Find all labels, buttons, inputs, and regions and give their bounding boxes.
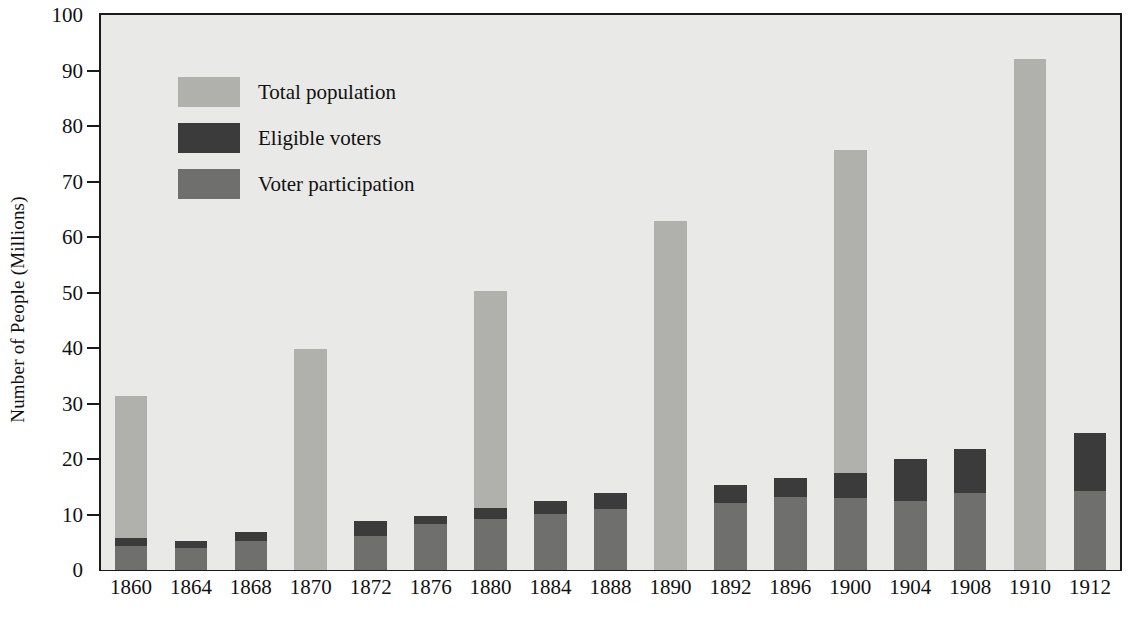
bar-group[interactable] bbox=[594, 15, 627, 570]
x-axis-tick-label: 1880 bbox=[461, 575, 521, 600]
bar-group[interactable] bbox=[654, 15, 687, 570]
y-axis-tick-label: 30 bbox=[62, 391, 83, 417]
x-axis-tick-label: 1872 bbox=[341, 575, 401, 600]
x-axis-tick-label: 1888 bbox=[581, 575, 641, 600]
legend-item-label: Voter participation bbox=[258, 172, 415, 197]
bar-segment-voter-participation[interactable] bbox=[1074, 491, 1107, 570]
bar-segment-voter-participation[interactable] bbox=[534, 514, 567, 570]
x-axis-tick-label: 1910 bbox=[1000, 575, 1060, 600]
bar-segment-voter-participation[interactable] bbox=[235, 541, 268, 570]
legend-swatch-icon bbox=[178, 169, 240, 199]
bar-segment-voter-participation[interactable] bbox=[474, 519, 507, 570]
y-axis-tick-label: 20 bbox=[62, 446, 83, 472]
y-axis-tick-label: 0 bbox=[73, 557, 84, 583]
bar-group[interactable] bbox=[115, 15, 148, 570]
bar-segment-voter-participation[interactable] bbox=[354, 536, 387, 570]
legend-item[interactable]: Voter participation bbox=[178, 161, 508, 207]
bar-segment-voter-participation[interactable] bbox=[894, 501, 927, 570]
y-axis-tick-label: 40 bbox=[62, 335, 83, 361]
bar-group[interactable] bbox=[894, 15, 927, 570]
bar-segment-total-population[interactable] bbox=[294, 349, 327, 570]
y-axis-tick-label: 80 bbox=[62, 113, 83, 139]
legend-item[interactable]: Total population bbox=[178, 69, 508, 115]
bar-group[interactable] bbox=[774, 15, 807, 570]
axis-spine-right bbox=[1120, 13, 1122, 571]
x-axis-tick-label: 1868 bbox=[221, 575, 281, 600]
legend-item-label: Total population bbox=[258, 80, 396, 105]
bar-group[interactable] bbox=[534, 15, 567, 570]
bar-segment-voter-participation[interactable] bbox=[774, 497, 807, 570]
bar-segment-total-population[interactable] bbox=[654, 221, 687, 570]
bar-group[interactable] bbox=[714, 15, 747, 570]
bar-group[interactable] bbox=[954, 15, 987, 570]
y-axis-tick-label: 10 bbox=[62, 502, 83, 528]
x-axis-tick-label: 1896 bbox=[760, 575, 820, 600]
bar-segment-voter-participation[interactable] bbox=[115, 546, 148, 570]
bar-group[interactable] bbox=[1074, 15, 1107, 570]
chart-legend: Total populationEligible votersVoter par… bbox=[178, 69, 508, 207]
y-axis-tick-label: 60 bbox=[62, 224, 83, 250]
x-axis-tick-label: 1884 bbox=[521, 575, 581, 600]
x-axis-tick-label: 1912 bbox=[1060, 575, 1120, 600]
x-axis-tick-label: 1870 bbox=[281, 575, 341, 600]
bar-segment-voter-participation[interactable] bbox=[594, 509, 627, 570]
bar-segment-voter-participation[interactable] bbox=[714, 503, 747, 570]
x-axis-tick-label: 1860 bbox=[101, 575, 161, 600]
x-axis-tick-label: 1876 bbox=[401, 575, 461, 600]
x-axis-tick-label: 1908 bbox=[940, 575, 1000, 600]
x-axis-tick-label: 1892 bbox=[700, 575, 760, 600]
legend-swatch-icon bbox=[178, 77, 240, 107]
x-axis-tick-label: 1904 bbox=[880, 575, 940, 600]
bar-segment-total-population[interactable] bbox=[1014, 59, 1047, 570]
x-axis-tick-label: 1864 bbox=[161, 575, 221, 600]
y-axis-tick-label: 100 bbox=[52, 2, 84, 28]
bar-group[interactable] bbox=[834, 15, 867, 570]
bar-segment-voter-participation[interactable] bbox=[414, 524, 447, 570]
y-axis: 0102030405060708090100 bbox=[0, 0, 100, 619]
y-axis-tick-label: 70 bbox=[62, 169, 83, 195]
y-axis-tick-label: 50 bbox=[62, 280, 83, 306]
legend-item[interactable]: Eligible voters bbox=[178, 115, 508, 161]
bar-segment-voter-participation[interactable] bbox=[954, 493, 987, 570]
x-axis-tick-label: 1900 bbox=[820, 575, 880, 600]
chart-figure: Number of People (Millions) 010203040506… bbox=[0, 0, 1139, 619]
bar-group[interactable] bbox=[1014, 15, 1047, 570]
x-axis-tick-labels: 1860186418681870187218761880188418881890… bbox=[101, 575, 1120, 615]
bar-segment-voter-participation[interactable] bbox=[175, 548, 208, 570]
legend-swatch-icon bbox=[178, 123, 240, 153]
legend-item-label: Eligible voters bbox=[258, 126, 381, 151]
y-axis-tick-label: 90 bbox=[62, 58, 83, 84]
x-axis-tick-label: 1890 bbox=[640, 575, 700, 600]
bar-segment-voter-participation[interactable] bbox=[834, 498, 867, 570]
